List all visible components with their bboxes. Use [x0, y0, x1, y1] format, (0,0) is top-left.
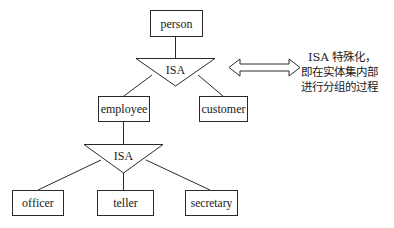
entity-teller[interactable]: teller — [98, 191, 154, 216]
entity-customer-label: customer — [202, 102, 246, 116]
entity-teller-label: teller — [113, 196, 138, 210]
connector-isa-secretary — [146, 160, 210, 190]
entity-secretary[interactable]: secretary — [186, 191, 238, 216]
connector-isa-customer — [198, 75, 223, 96]
double-arrow-icon — [229, 59, 300, 76]
entity-person[interactable]: person — [151, 11, 203, 37]
entity-secretary-label: secretary — [191, 197, 233, 210]
entity-person-label: person — [161, 17, 193, 31]
connector-isa-officer — [38, 160, 101, 190]
entity-employee[interactable]: employee — [99, 97, 150, 122]
entity-officer-label: officer — [22, 196, 54, 210]
connector-isa-employee — [124, 75, 152, 96]
isa-note: ISA 特殊化， 即在实体集内部 进行分组的过程 — [301, 50, 393, 95]
isa-triangle-bottom[interactable]: ISA — [84, 145, 163, 174]
entity-employee-label: employee — [101, 102, 148, 116]
isa-triangle-top[interactable]: ISA — [136, 59, 215, 87]
isa-top-label: ISA — [166, 63, 186, 77]
isa-bottom-label: ISA — [114, 149, 134, 163]
entity-customer[interactable]: customer — [200, 97, 248, 122]
er-diagram: person ISA employee customer ISA officer… — [0, 0, 394, 228]
note-line-2: 即在实体集内部 — [301, 65, 393, 80]
note-line-1: ISA 特殊化， — [301, 50, 393, 65]
entity-officer[interactable]: officer — [13, 191, 64, 216]
note-line-3: 进行分组的过程 — [301, 80, 393, 95]
